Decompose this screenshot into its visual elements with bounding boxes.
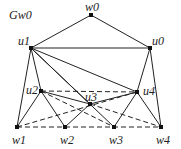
graph-canvas bbox=[0, 0, 181, 149]
edge-w0-u0 bbox=[91, 15, 150, 48]
edge-u1-u4 bbox=[31, 48, 137, 92]
node-w1 bbox=[15, 125, 19, 129]
dashed-edge-u2-w3 bbox=[41, 91, 114, 127]
graph-title: Gw0 bbox=[9, 9, 32, 21]
node-w3 bbox=[112, 125, 116, 129]
node-u4 bbox=[135, 90, 139, 94]
graph-diagram: Gw0 w0u1u0u2u3u4w1w2w3w4 bbox=[0, 0, 181, 149]
node-w4 bbox=[159, 125, 163, 129]
node-w2 bbox=[63, 125, 67, 129]
node-label-u0: u0 bbox=[152, 35, 164, 47]
node-label-u3: u3 bbox=[85, 91, 97, 103]
dashed-edge-u3-w4 bbox=[90, 104, 161, 127]
node-label-w2: w2 bbox=[60, 134, 74, 146]
edge-u1-w3 bbox=[31, 48, 114, 127]
edge-u3-w2 bbox=[65, 104, 90, 127]
node-label-w0: w0 bbox=[85, 1, 99, 13]
node-u2 bbox=[39, 89, 43, 93]
node-label-w4: w4 bbox=[156, 134, 170, 146]
node-label-u2: u2 bbox=[26, 84, 38, 96]
node-label-u4: u4 bbox=[143, 85, 155, 97]
node-label-u1: u1 bbox=[18, 35, 30, 47]
node-label-w1: w1 bbox=[12, 134, 26, 146]
dashed-edge-w1-u4 bbox=[17, 92, 137, 127]
edge-w0-u1 bbox=[31, 15, 91, 48]
node-label-w3: w3 bbox=[109, 134, 123, 146]
